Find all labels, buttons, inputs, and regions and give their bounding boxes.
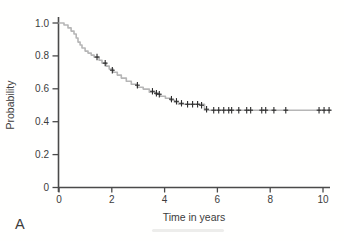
- x-tick-label: 6: [215, 194, 221, 205]
- y-tick-label: 0: [43, 182, 49, 193]
- y-axis-ticks: 00.20.40.60.81.0: [35, 18, 58, 194]
- y-tick-label: 0.8: [35, 50, 49, 61]
- y-tick-label: 1.0: [35, 18, 49, 29]
- survival-curve: [59, 23, 331, 110]
- censor-marks: [95, 54, 332, 114]
- x-tick-label: 10: [317, 194, 329, 205]
- panel-label: A: [15, 216, 25, 232]
- y-axis-title: Probability: [4, 80, 16, 130]
- kaplan-meier-plot: 00.20.40.60.81.0 0246810 Probability Tim…: [0, 0, 344, 241]
- survival-curve-figure: 00.20.40.60.81.0 0246810 Probability Tim…: [0, 0, 344, 241]
- y-tick-label: 0.2: [35, 149, 49, 160]
- x-tick-label: 2: [109, 194, 115, 205]
- y-tick-label: 0.4: [35, 116, 49, 127]
- x-tick-label: 8: [267, 194, 273, 205]
- x-tick-label: 0: [56, 194, 62, 205]
- x-tick-label: 4: [162, 194, 168, 205]
- x-axis-title: Time in years: [163, 211, 226, 223]
- scan-artifact: [152, 229, 224, 232]
- y-tick-label: 0.6: [35, 83, 49, 94]
- x-axis-ticks: 0246810: [56, 188, 329, 206]
